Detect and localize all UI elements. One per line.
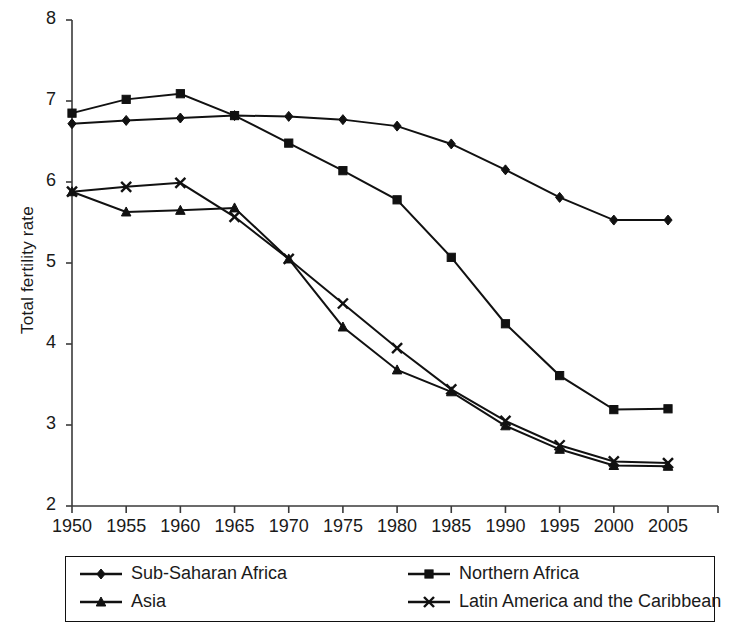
x-tick-label: 1980 — [369, 516, 425, 537]
legend-marker-x — [406, 593, 452, 611]
legend-item[interactable]: Sub-Saharan Africa — [78, 563, 287, 584]
series-line-square — [72, 94, 668, 410]
x-tick-label: 1970 — [261, 516, 317, 537]
x-tick-label: 1995 — [532, 516, 588, 537]
marker-square — [393, 196, 401, 204]
marker-x — [392, 343, 402, 353]
legend-marker-square — [406, 565, 452, 583]
diamond-marker — [97, 569, 105, 579]
y-tick-label: 8 — [30, 8, 56, 29]
marker-square — [501, 320, 509, 328]
legend-label: Sub-Saharan Africa — [131, 563, 287, 584]
square-marker — [425, 569, 433, 577]
diamond-marker — [501, 165, 509, 175]
square-marker — [176, 90, 184, 98]
marker-diamond — [122, 115, 130, 125]
square-marker — [285, 139, 293, 147]
x-tick-label: 1955 — [98, 516, 154, 537]
square-marker — [68, 109, 76, 117]
diamond-marker — [176, 113, 184, 123]
marker-square — [425, 569, 433, 577]
marker-diamond — [393, 121, 401, 131]
legend-marker-diamond — [78, 565, 124, 583]
square-marker — [447, 253, 455, 261]
legend-marker-triangle — [78, 593, 124, 611]
legend-label: Asia — [131, 591, 166, 612]
series-line-diamond — [72, 116, 668, 220]
marker-square — [339, 167, 347, 175]
marker-diamond — [501, 165, 509, 175]
square-marker — [664, 405, 672, 413]
legend-label: Latin America and the Caribbean — [459, 591, 721, 612]
marker-x — [338, 299, 348, 309]
x-tick-label: 1965 — [207, 516, 263, 537]
marker-diamond — [68, 119, 76, 129]
series-line-x — [72, 183, 668, 463]
y-tick-label: 5 — [30, 251, 56, 272]
diamond-marker — [68, 119, 76, 129]
x-tick-label: 1975 — [315, 516, 371, 537]
marker-diamond — [447, 139, 455, 149]
marker-square — [230, 111, 238, 119]
square-marker — [122, 95, 130, 103]
plot-area — [0, 0, 738, 634]
marker-square — [68, 109, 76, 117]
y-tick-label: 4 — [30, 332, 56, 353]
x-tick-label: 1960 — [152, 516, 208, 537]
marker-diamond — [556, 192, 564, 202]
marker-diamond — [285, 111, 293, 121]
y-tick-label: 6 — [30, 170, 56, 191]
fertility-rate-line-chart: Total fertility rate 2345678 19501955196… — [0, 0, 738, 634]
chart-legend: Sub-Saharan AfricaNorthern AfricaAsiaLat… — [65, 556, 715, 622]
legend-item[interactable]: Asia — [78, 591, 166, 612]
square-marker — [556, 371, 564, 379]
x-tick-label: 2005 — [640, 516, 696, 537]
diamond-marker — [556, 192, 564, 202]
square-marker — [393, 196, 401, 204]
x-tick-label: 2000 — [586, 516, 642, 537]
legend-item[interactable]: Northern Africa — [406, 563, 579, 584]
legend-item[interactable]: Latin America and the Caribbean — [406, 591, 721, 612]
x-tick-label: 1950 — [44, 516, 100, 537]
square-marker — [610, 406, 618, 414]
marker-square — [664, 405, 672, 413]
marker-diamond — [664, 215, 672, 225]
diamond-marker — [122, 115, 130, 125]
x-tick-label: 1990 — [477, 516, 533, 537]
diamond-marker — [610, 215, 618, 225]
marker-diamond — [610, 215, 618, 225]
diamond-marker — [339, 115, 347, 125]
x-tick-label: 1985 — [423, 516, 479, 537]
marker-square — [610, 406, 618, 414]
diamond-marker — [447, 139, 455, 149]
square-marker — [230, 111, 238, 119]
diamond-marker — [664, 215, 672, 225]
legend-label: Northern Africa — [459, 563, 579, 584]
square-marker — [501, 320, 509, 328]
marker-square — [285, 139, 293, 147]
marker-square — [122, 95, 130, 103]
marker-diamond — [97, 569, 105, 579]
y-tick-label: 2 — [30, 494, 56, 515]
square-marker — [339, 167, 347, 175]
y-tick-label: 3 — [30, 413, 56, 434]
marker-square — [447, 253, 455, 261]
marker-diamond — [339, 115, 347, 125]
y-tick-label: 7 — [30, 89, 56, 110]
diamond-marker — [285, 111, 293, 121]
marker-square — [176, 90, 184, 98]
marker-square — [556, 371, 564, 379]
series-line-triangle — [72, 192, 668, 467]
marker-x — [230, 212, 240, 222]
diamond-marker — [393, 121, 401, 131]
marker-diamond — [176, 113, 184, 123]
